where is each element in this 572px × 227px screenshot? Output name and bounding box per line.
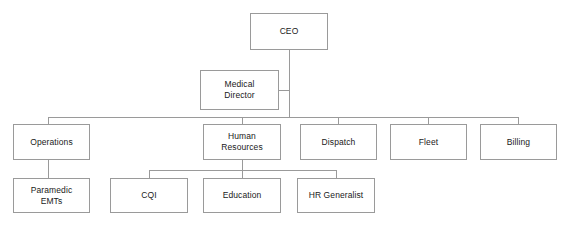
node-human-resources-label-line2: Resources [221,142,263,153]
connector-level2-bus [48,117,519,118]
node-fleet-label: Fleet [419,137,438,148]
node-cqi[interactable]: CQI [110,178,188,213]
node-medical-director[interactable]: Medical Director [200,70,279,110]
connector-ceo-spine [289,50,290,117]
node-human-resources[interactable]: Human Resources [203,124,281,160]
node-medical-director-label-line2: Director [224,90,255,101]
node-billing[interactable]: Billing [480,124,557,160]
node-ceo-label: CEO [280,26,299,37]
connector-operations-to-paramedic [48,160,49,179]
node-education-label: Education [223,190,262,201]
connector-hr-children-bus [149,170,337,171]
node-fleet[interactable]: Fleet [390,124,467,160]
node-operations-label: Operations [30,137,73,148]
node-paramedic-emts-label-line1: Paramedic [31,185,73,196]
node-paramedic-emts-label-line2: EMTs [41,196,63,207]
connector-medical-director-stub [279,90,290,91]
node-cqi-label: CQI [141,190,156,201]
node-ceo[interactable]: CEO [250,13,328,50]
node-hr-generalist-label: HR Generalist [309,190,364,201]
node-operations[interactable]: Operations [13,124,90,160]
node-human-resources-label-line1: Human [228,131,256,142]
node-billing-label: Billing [507,137,530,148]
org-chart-diagram: CEO Medical Director Operations Human Re… [0,0,572,227]
node-hr-generalist[interactable]: HR Generalist [297,178,375,213]
node-paramedic-emts[interactable]: Paramedic EMTs [13,178,90,213]
node-dispatch-label: Dispatch [322,137,356,148]
node-medical-director-label-line1: Medical [225,79,255,90]
node-dispatch[interactable]: Dispatch [300,124,377,160]
node-education[interactable]: Education [203,178,281,213]
